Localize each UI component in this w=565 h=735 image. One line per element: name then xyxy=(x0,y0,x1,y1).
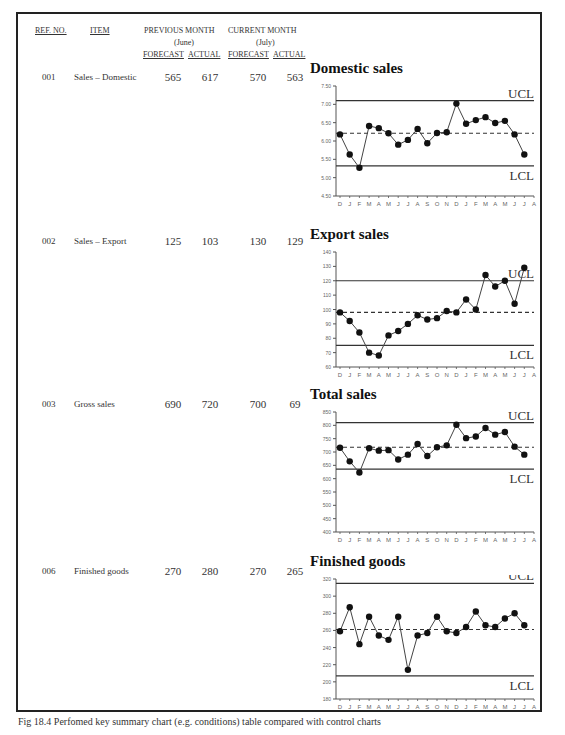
x-tick-label: M xyxy=(483,537,488,543)
row-ref: 002 xyxy=(42,236,56,246)
y-tick-label: 80 xyxy=(325,335,331,341)
control-chart-plot: 7.507.006.506.005.505.004.50DJFMAMJJASON… xyxy=(310,82,558,212)
row-prev-forecast: 125 xyxy=(155,235,191,247)
x-tick-label: M xyxy=(386,537,391,543)
y-tick-label: 5.00 xyxy=(321,175,331,181)
x-tick-label: F xyxy=(474,704,478,710)
x-tick-label: J xyxy=(406,201,409,207)
data-point xyxy=(414,312,420,318)
ucl-label: UCL xyxy=(508,408,534,423)
data-point xyxy=(434,315,440,321)
data-point xyxy=(395,456,401,462)
data-point xyxy=(473,117,479,123)
y-tick-label: 180 xyxy=(323,696,332,702)
data-point xyxy=(444,129,450,135)
x-tick-label: J xyxy=(406,537,409,543)
x-tick-label: A xyxy=(493,201,497,207)
chart-finished-goods: Finished goods 320300280260240220200180D… xyxy=(310,553,558,713)
x-tick-label: D xyxy=(454,201,459,207)
y-tick-label: 650 xyxy=(323,462,332,468)
row-item: Finished goods xyxy=(74,566,129,576)
lcl-label: LCL xyxy=(509,168,534,183)
row-prev-actual: 617 xyxy=(192,71,228,83)
data-point xyxy=(482,622,488,628)
y-tick-label: 6.50 xyxy=(321,120,331,126)
x-tick-label: F xyxy=(474,201,478,207)
row-prev-forecast: 565 xyxy=(155,71,191,83)
data-point xyxy=(453,309,459,315)
y-tick-label: 600 xyxy=(323,476,332,482)
x-tick-label: J xyxy=(465,704,468,710)
x-tick-label: O xyxy=(435,201,440,207)
row-cur-forecast: 570 xyxy=(240,71,276,83)
data-point xyxy=(414,632,420,638)
x-tick-label: J xyxy=(406,372,409,378)
row-cur-forecast: 270 xyxy=(240,565,276,577)
x-tick-label: O xyxy=(435,704,440,710)
header-prev-actual: ACTUAL xyxy=(188,50,220,59)
y-tick-label: 450 xyxy=(323,516,332,522)
data-point xyxy=(482,114,488,120)
x-tick-label: O xyxy=(435,372,440,378)
data-point xyxy=(385,447,391,453)
header-cur-actual: ACTUAL xyxy=(273,50,305,59)
data-point xyxy=(376,632,382,638)
data-point xyxy=(366,123,372,129)
x-tick-label: J xyxy=(513,201,516,207)
data-point xyxy=(424,453,430,459)
data-point xyxy=(434,614,440,620)
data-point xyxy=(453,422,459,428)
x-tick-label: A xyxy=(493,372,497,378)
chart-title: Total sales xyxy=(310,386,377,403)
y-tick-label: 6.00 xyxy=(321,138,331,144)
data-point xyxy=(463,435,469,441)
data-point xyxy=(337,309,343,315)
row-ref: 006 xyxy=(42,566,56,576)
data-point xyxy=(366,349,372,355)
x-tick-label: J xyxy=(348,372,351,378)
x-tick-label: J xyxy=(513,704,516,710)
x-tick-label: M xyxy=(367,537,372,543)
y-tick-label: 5.50 xyxy=(321,156,331,162)
data-point xyxy=(395,614,401,620)
header-previous-month-sub: (June) xyxy=(174,38,194,47)
x-tick-label: F xyxy=(358,201,362,207)
x-tick-label: N xyxy=(445,201,449,207)
figure-caption: Fig 18.4 Perfomed key summary chart (e.g… xyxy=(18,716,381,727)
data-point xyxy=(414,441,420,447)
data-point xyxy=(511,443,517,449)
data-point xyxy=(366,445,372,451)
x-tick-label: J xyxy=(523,537,526,543)
y-tick-label: 500 xyxy=(323,502,332,508)
data-point xyxy=(405,667,411,673)
chart-export-sales: Export sales 14013012011010090807060DJFM… xyxy=(310,226,558,386)
row-cur-forecast: 130 xyxy=(240,235,276,247)
data-point xyxy=(424,140,430,146)
data-point xyxy=(473,608,479,614)
data-point xyxy=(434,444,440,450)
lcl-label: LCL xyxy=(509,678,534,693)
data-point xyxy=(385,637,391,643)
y-tick-label: 260 xyxy=(323,627,332,633)
data-point xyxy=(424,316,430,322)
x-tick-label: N xyxy=(445,537,449,543)
x-tick-label: J xyxy=(523,372,526,378)
data-point xyxy=(502,278,508,284)
data-point xyxy=(502,615,508,621)
y-tick-label: 90 xyxy=(325,321,331,327)
data-point xyxy=(424,630,430,636)
x-tick-label: J xyxy=(348,704,351,710)
data-point xyxy=(395,328,401,334)
data-point xyxy=(492,283,498,289)
x-tick-label: D xyxy=(338,201,343,207)
x-tick-label: N xyxy=(445,372,449,378)
data-point xyxy=(502,429,508,435)
x-tick-label: F xyxy=(474,372,478,378)
data-point xyxy=(521,451,527,457)
row-cur-actual: 563 xyxy=(277,71,313,83)
x-tick-label: J xyxy=(513,537,516,543)
data-point xyxy=(463,624,469,630)
data-point xyxy=(347,458,353,464)
row-cur-actual: 69 xyxy=(277,398,313,410)
x-tick-label: J xyxy=(465,537,468,543)
